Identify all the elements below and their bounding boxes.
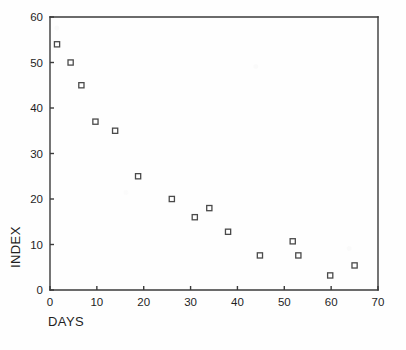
- x-tick-label: 70: [372, 296, 385, 308]
- x-tick-label: 60: [325, 296, 338, 308]
- y-tick-label: 40: [30, 102, 43, 114]
- data-point: [169, 196, 174, 201]
- scatter-plot-figure: ........... 0102030405060 01020304050607…: [0, 0, 406, 350]
- data-point: [290, 239, 295, 244]
- data-point: [113, 128, 118, 133]
- y-tick-label: 20: [30, 193, 43, 205]
- data-point: [328, 273, 333, 278]
- y-tick-label: 30: [30, 148, 43, 160]
- x-tick-label: 50: [278, 296, 291, 308]
- y-axis-title: INDEX: [8, 226, 23, 268]
- plot-canvas: 0102030405060 010203040506070 INDEX DAYS: [0, 0, 406, 350]
- x-tick-label: 0: [47, 296, 53, 308]
- data-point: [68, 60, 73, 65]
- x-tick-label: 20: [137, 296, 150, 308]
- data-point: [79, 83, 84, 88]
- y-tick-label: 10: [30, 239, 43, 251]
- x-tick-label: 10: [90, 296, 103, 308]
- data-point: [225, 229, 230, 234]
- data-point: [207, 206, 212, 211]
- x-axis-title: DAYS: [48, 314, 84, 329]
- y-tick-label: 60: [30, 11, 43, 23]
- y-tick-label: 50: [30, 57, 43, 69]
- x-axis-tick-labels: 010203040506070: [47, 296, 385, 308]
- data-point: [135, 174, 140, 179]
- data-point-markers: [54, 42, 357, 278]
- data-point: [352, 263, 357, 268]
- data-point: [257, 253, 262, 258]
- y-tick-label: 0: [37, 284, 43, 296]
- y-axis-tick-labels: 0102030405060: [30, 11, 43, 296]
- data-point: [93, 119, 98, 124]
- x-tick-label: 30: [184, 296, 197, 308]
- axes-group: [50, 17, 378, 290]
- x-tick-label: 40: [231, 296, 244, 308]
- data-point: [54, 42, 59, 47]
- data-point: [192, 215, 197, 220]
- data-point: [296, 253, 301, 258]
